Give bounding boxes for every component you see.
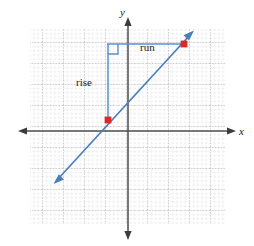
point-marker-upper (181, 41, 188, 48)
x-axis-arrow-right (227, 127, 236, 134)
y-axis-label: y (120, 7, 125, 18)
y-axis-arrow-down (124, 231, 131, 240)
rise-label: rise (76, 77, 92, 88)
y-axis-arrow-up (124, 17, 131, 26)
x-axis-arrow-left (18, 127, 27, 134)
graph-canvas (0, 0, 254, 246)
point-marker-lower (105, 117, 112, 124)
run-label: run (140, 42, 155, 53)
slope-graph-figure: y x rise run (0, 0, 254, 246)
x-axis-label: x (239, 126, 244, 137)
